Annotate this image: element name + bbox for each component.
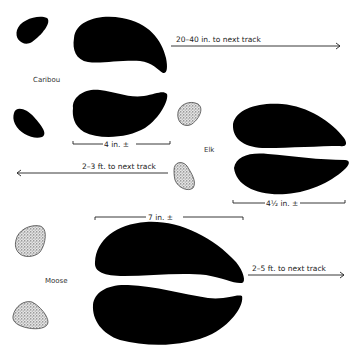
moose-hoof-top xyxy=(95,222,244,283)
elk-size-bracket: 4½ in. ± xyxy=(233,199,345,208)
caribou-hoof-bottom xyxy=(73,90,168,137)
elk-track: Elk 4½ in. ± 2–3 ft. to next track xyxy=(17,102,349,208)
moose-size-bracket: 7 in. ± xyxy=(95,213,243,222)
moose-size-label: 7 in. ± xyxy=(148,213,173,222)
moose-dewclaw-bottom xyxy=(13,302,48,329)
caribou-dewclaw-top xyxy=(16,17,48,44)
caribou-stride-arrow: 20–40 in. to next track xyxy=(171,35,340,49)
track-diagram: Caribou 4 in. ± 20–40 in. to next track … xyxy=(0,0,355,355)
caribou-size-bracket: 4 in. ± xyxy=(73,140,170,149)
elk-stride-label: 2–3 ft. to next track xyxy=(82,162,157,171)
moose-stride-arrow: 2–5 ft. to next track xyxy=(248,264,344,278)
elk-hoof-bottom xyxy=(234,154,349,195)
caribou-dewclaw-bottom xyxy=(13,109,44,138)
elk-dewclaw-bottom xyxy=(174,163,194,190)
elk-stride-arrow: 2–3 ft. to next track xyxy=(17,162,168,176)
moose-label: Moose xyxy=(45,277,68,285)
caribou-hoof-top xyxy=(74,17,167,73)
elk-size-label: 4½ in. ± xyxy=(266,199,298,208)
caribou-stride-label: 20–40 in. to next track xyxy=(176,35,261,44)
caribou-label: Caribou xyxy=(33,76,60,84)
elk-label: Elk xyxy=(204,146,215,154)
elk-hoof-top xyxy=(233,104,346,148)
moose-dewclaw-top xyxy=(15,226,45,257)
moose-stride-label: 2–5 ft. to next track xyxy=(252,264,327,273)
caribou-size-label: 4 in. ± xyxy=(104,140,129,149)
elk-dewclaw-top xyxy=(178,102,201,125)
moose-hoof-bottom xyxy=(93,285,242,345)
moose-track: Moose 7 in. ± 2–5 ft. to next track xyxy=(13,213,344,345)
